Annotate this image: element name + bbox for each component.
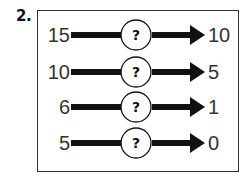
unknown-operation: ? [122, 58, 150, 86]
output-value: 0 [208, 130, 219, 156]
unknown-operation: ? [122, 129, 150, 157]
unknown-operation: ? [122, 93, 150, 121]
function-row-3: 6 ? 1 [0, 90, 250, 124]
function-row-4: 5 ? 0 [0, 126, 250, 160]
input-value: 5 [59, 130, 70, 156]
function-row-1: 15 ? 10 [0, 18, 250, 52]
output-value: 1 [208, 94, 219, 120]
input-value: 15 [48, 22, 70, 48]
output-value: 5 [208, 59, 219, 85]
output-value: 10 [208, 22, 230, 48]
unknown-operation: ? [122, 21, 150, 49]
input-value: 10 [48, 59, 70, 85]
worksheet-page: 2. 15 ? 10 10 ? 5 6 ? [0, 0, 250, 177]
input-value: 6 [59, 94, 70, 120]
function-row-2: 10 ? 5 [0, 55, 250, 89]
